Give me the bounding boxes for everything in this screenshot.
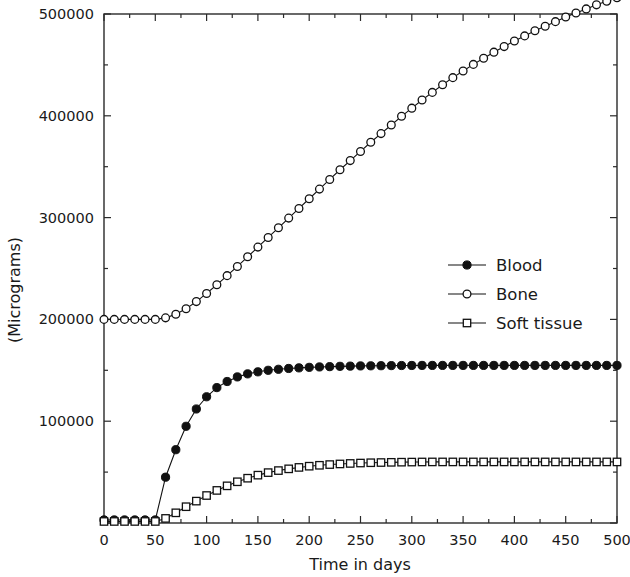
data-marker [306,462,313,469]
data-marker [295,464,302,471]
x-tick-label: 250 [347,532,375,548]
legend-item-blood: Blood [448,256,543,275]
data-marker [100,518,107,525]
data-marker [346,157,354,165]
data-marker [593,1,601,9]
data-marker [490,361,498,369]
data-marker [244,370,252,378]
data-marker [192,405,200,413]
series-line [104,462,617,522]
data-marker [562,13,570,21]
data-marker [336,166,344,174]
data-marker [398,112,406,120]
data-marker [110,316,118,324]
data-marker [203,393,211,401]
x-tick-label: 50 [146,532,164,548]
data-marker [531,27,539,35]
data-marker [459,361,467,369]
data-marker [500,361,508,369]
x-tick-label: 0 [99,532,108,548]
data-marker [172,310,180,318]
data-marker [480,361,488,369]
data-marker [254,368,262,376]
legend-label: Soft tissue [496,314,583,333]
x-tick-label: 300 [398,532,426,548]
data-marker [469,361,477,369]
data-marker [192,298,200,306]
data-marker [121,518,128,525]
data-marker [316,185,324,193]
data-marker [326,363,334,371]
data-marker [500,458,507,465]
data-marker [428,88,436,96]
data-marker [387,362,395,370]
y-axis-title: (Micrograms) [5,237,24,343]
data-marker [551,361,559,369]
data-marker [131,316,139,324]
y-axis-tick-labels: 100000200000300000400000500000 [39,6,94,429]
data-marker [459,67,467,75]
x-axis-title: Time in days [308,555,411,574]
data-marker [531,458,538,465]
data-marker [131,518,138,525]
data-marker [510,361,518,369]
data-marker [470,458,477,465]
data-marker [182,503,189,510]
data-marker [418,96,426,104]
data-marker [275,224,283,232]
data-marker [264,366,272,374]
data-marker [397,361,405,369]
data-marker [438,361,446,369]
data-marker [161,473,169,481]
data-marker [326,176,334,184]
series-blood [100,361,621,524]
data-marker [480,458,487,465]
data-marker [418,458,425,465]
data-marker [193,497,200,504]
data-marker [521,361,529,369]
data-marker [285,214,293,222]
y-tick-label: 200000 [39,311,94,327]
x-tick-label: 400 [501,532,529,548]
data-marker [439,458,446,465]
data-marker [162,515,169,522]
data-marker [244,475,251,482]
data-marker [603,361,611,369]
x-axis-tick-labels: 050100150200250300350400450500 [99,532,630,548]
data-marker [511,37,519,45]
data-marker [439,81,447,89]
data-marker [562,458,569,465]
data-marker [182,305,190,313]
data-marker [408,104,416,112]
data-marker [346,362,354,370]
legend-label: Blood [496,256,543,275]
data-marker [377,130,385,138]
y-tick-label: 500000 [39,6,94,22]
data-marker [315,363,323,371]
x-tick-label: 150 [244,532,272,548]
data-marker [295,364,303,372]
data-marker [418,361,426,369]
data-marker [583,458,590,465]
data-marker [613,361,621,369]
data-marker [121,316,129,324]
data-marker [162,314,170,322]
data-marker [275,467,282,474]
data-marker [213,487,220,494]
data-marker [500,43,508,51]
data-marker [347,460,354,467]
data-marker [582,5,590,13]
data-marker [254,471,261,478]
data-marker [203,492,210,499]
data-marker [141,518,148,525]
data-marker [357,459,364,466]
data-marker [111,518,118,525]
data-marker [398,458,405,465]
data-marker [511,458,518,465]
data-marker [408,458,415,465]
data-marker [613,458,620,465]
data-marker [521,32,529,40]
data-marker [316,462,323,469]
legend-item-bone: Bone [448,285,538,304]
data-marker [326,461,333,468]
